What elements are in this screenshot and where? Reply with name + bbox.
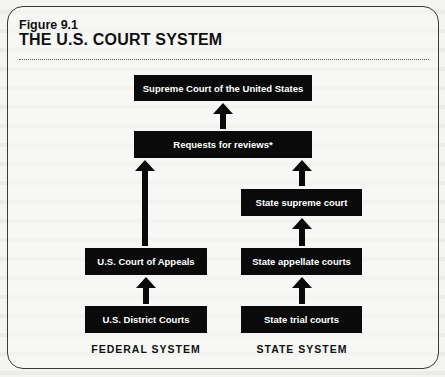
- federal-system-label: FEDERAL SYSTEM: [80, 343, 212, 355]
- node-state-appellate-courts: State appellate courts: [241, 248, 362, 275]
- arrow-up-icon: [292, 160, 312, 186]
- arrow-up-icon: [213, 103, 233, 129]
- node-supreme-court: Supreme Court of the United States: [134, 75, 312, 101]
- node-district-courts: U.S. District Courts: [85, 306, 207, 333]
- figure-number: Figure 9.1: [19, 18, 78, 32]
- title-divider: [19, 59, 429, 60]
- figure-title: THE U.S. COURT SYSTEM: [19, 31, 222, 49]
- arrow-up-icon: [136, 277, 156, 304]
- node-state-supreme-court: State supreme court: [241, 189, 362, 216]
- node-state-trial-courts: State trial courts: [241, 306, 362, 333]
- arrow-up-icon: [292, 277, 312, 304]
- state-system-label: STATE SYSTEM: [236, 343, 368, 355]
- node-requests-for-reviews: Requests for reviews*: [134, 131, 312, 158]
- arrow-up-icon: [135, 160, 155, 246]
- node-court-of-appeals: U.S. Court of Appeals: [85, 248, 207, 275]
- arrow-up-icon: [292, 218, 312, 246]
- figure-frame: [7, 6, 439, 369]
